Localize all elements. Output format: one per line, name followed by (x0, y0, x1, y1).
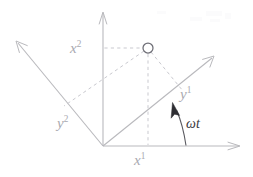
label-x2: x2 (70, 40, 81, 56)
point-marker (143, 43, 153, 53)
projection-to-y2 (64, 51, 144, 106)
figure-canvas: x2 x1 y1 y2 ωt (0, 0, 253, 177)
label-y1-superscript: 1 (187, 85, 192, 95)
label-y2-base: y (57, 115, 64, 131)
label-x1: x1 (134, 152, 145, 168)
omega-t-arc (177, 110, 187, 146)
label-y1-base: y (180, 86, 187, 102)
label-x2-superscript: 2 (77, 39, 82, 49)
y1-axis-line (103, 58, 212, 146)
axes-group (16, 12, 240, 150)
label-x1-base: x (134, 152, 141, 168)
label-y2-superscript: 2 (64, 114, 69, 124)
watermark-artifacts (157, 11, 231, 22)
label-x2-base: x (70, 40, 77, 56)
label-y1: y1 (180, 86, 191, 102)
label-x1-superscript: 1 (141, 151, 146, 161)
label-omega-t: ωt (186, 117, 200, 131)
coordinate-diagram-svg (0, 0, 253, 177)
label-y2: y2 (57, 115, 68, 131)
omega-t-angle-indicator (171, 103, 186, 146)
